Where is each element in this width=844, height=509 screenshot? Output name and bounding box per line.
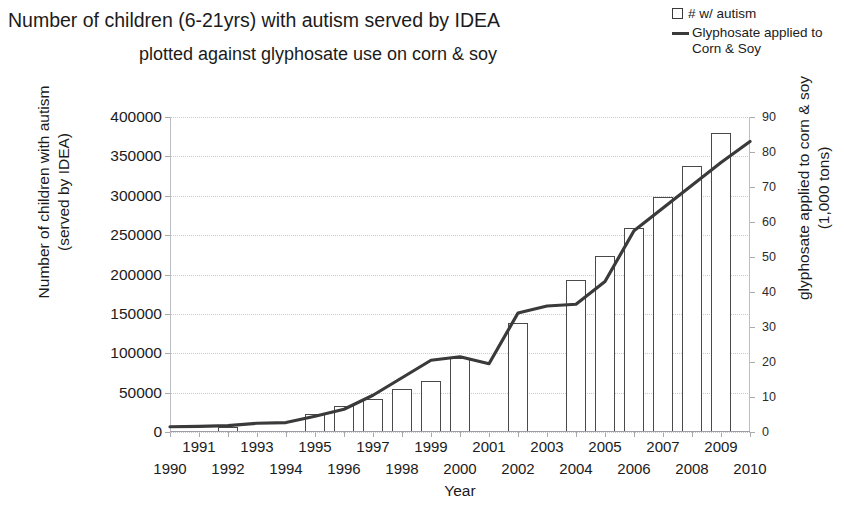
legend-box-swatch-icon: [672, 8, 683, 19]
y-axis-left-title-line1: Number of children with autism: [34, 42, 54, 342]
x-axis-tick-label: 1993: [230, 438, 284, 455]
y-axis-right-tick-mark: [750, 117, 755, 118]
y-axis-right-title-line2: (1,000 tons): [814, 38, 834, 338]
y-axis-right-tick-label: 90: [762, 110, 802, 124]
y-axis-left-tick-label: 100000: [62, 344, 162, 362]
x-axis-tick-label: 2004: [549, 460, 603, 477]
x-axis-tick-label: 2007: [636, 438, 690, 455]
y-axis-right-tick-mark: [750, 362, 755, 363]
y-axis-left-tick-label: 150000: [62, 305, 162, 323]
x-axis-tick-label: 1999: [404, 438, 458, 455]
x-axis-tick-label: 2006: [607, 460, 661, 477]
y-axis-right-tick-mark: [750, 257, 755, 258]
x-axis-tick-label: 2008: [665, 460, 719, 477]
y-axis-right-tick-label: 40: [762, 285, 802, 299]
x-axis-tick-label: 1996: [317, 460, 371, 477]
line-series: [170, 117, 750, 432]
x-axis-tick-label: 1997: [346, 438, 400, 455]
x-axis-title: Year: [170, 482, 750, 500]
y-axis-left-tick-label: 250000: [62, 226, 162, 244]
x-axis-line: [170, 431, 750, 432]
y-axis-right-tick-label: 70: [762, 180, 802, 194]
y-axis-left-tick-label: 200000: [62, 266, 162, 284]
y-axis-right-tick-label: 10: [762, 390, 802, 404]
x-axis-tick-label: 1995: [288, 438, 342, 455]
y-axis-right-tick-label: 20: [762, 355, 802, 369]
y-axis-left-tick-label: 400000: [62, 108, 162, 126]
legend-item-autism: # w/ autism: [672, 6, 844, 22]
y-axis-left-tick-label: 300000: [62, 187, 162, 205]
x-axis-tick-label: 2002: [491, 460, 545, 477]
y-axis-right-tick-mark: [750, 292, 755, 293]
y-axis-right-tick-label: 80: [762, 145, 802, 159]
y-axis-left-tick-label: 350000: [62, 147, 162, 165]
x-axis-tick-label: 1992: [201, 460, 255, 477]
gridline: [170, 432, 750, 433]
y-axis-right-tick-mark: [750, 397, 755, 398]
glyphosate-line-path: [170, 142, 750, 427]
legend-label-autism: # w/ autism: [688, 6, 756, 22]
y-axis-right-tick-label: 0: [762, 425, 802, 439]
x-axis-tick-label: 1994: [259, 460, 313, 477]
x-axis-tick-label: 2001: [462, 438, 516, 455]
x-axis-tick-label: 2009: [694, 438, 748, 455]
x-axis-tick-label: 1998: [375, 460, 429, 477]
x-axis-tick-label: 2000: [433, 460, 487, 477]
legend-line-swatch-icon: [672, 32, 689, 35]
y-axis-right-tick-label: 60: [762, 215, 802, 229]
y-axis-left-tick-label: 0: [62, 423, 162, 441]
chart-title-line-2: plotted against glyphosate use on corn &…: [8, 42, 628, 66]
y-axis-right-tick-label: 30: [762, 320, 802, 334]
plot-area: [170, 117, 750, 432]
y-axis-right-tick-mark: [750, 152, 755, 153]
x-axis-tick-label: 2010: [723, 460, 777, 477]
y-axis-right-tick-label: 50: [762, 250, 802, 264]
y-axis-left-tick-label: 50000: [62, 384, 162, 402]
x-axis-tick-label: 1991: [172, 438, 226, 455]
x-axis-tick-mark: [750, 432, 751, 437]
chart-root: Number of children (6-21yrs) with autism…: [0, 0, 844, 509]
y-axis-right-tick-mark: [750, 327, 755, 328]
x-axis-tick-label: 2005: [578, 438, 632, 455]
x-axis-tick-label: 1990: [143, 460, 197, 477]
y-axis-right-tick-mark: [750, 222, 755, 223]
x-axis-tick-label: 2003: [520, 438, 574, 455]
y-axis-right-tick-mark: [750, 187, 755, 188]
chart-title-line-1: Number of children (6-21yrs) with autism…: [8, 8, 648, 32]
